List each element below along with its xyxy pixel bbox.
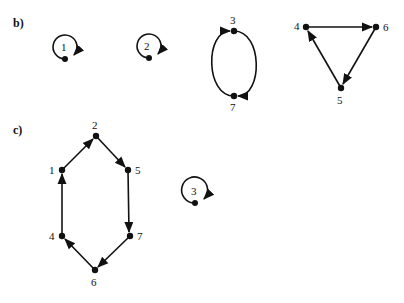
node-4 xyxy=(59,233,65,239)
node-5 xyxy=(338,85,344,91)
node-7 xyxy=(127,233,133,239)
panel-c: c) 1 2 5 7 6 4 3 xyxy=(13,119,208,288)
node-label-3: 3 xyxy=(191,185,197,197)
node-label-1: 1 xyxy=(61,41,67,53)
node-4 xyxy=(303,24,309,30)
node-2 xyxy=(146,55,152,61)
edge-3-7 xyxy=(234,31,256,96)
node-label-5: 5 xyxy=(135,164,141,176)
node-label-5: 5 xyxy=(337,94,343,106)
fixed-point-2: 2 xyxy=(137,34,161,61)
panel-b-label: b) xyxy=(13,16,24,30)
node-label-7: 7 xyxy=(137,230,143,242)
permutation-cycle-diagram: b) 1 2 3 7 4 xyxy=(0,0,404,303)
panel-b: b) 1 2 3 7 4 xyxy=(13,14,389,113)
node-1 xyxy=(62,56,68,62)
edge-2-5 xyxy=(96,136,125,167)
node-label-3: 3 xyxy=(230,14,236,26)
fixed-point-3: 3 xyxy=(182,177,208,206)
node-7 xyxy=(231,93,237,99)
edge-5-7 xyxy=(128,170,129,232)
edge-5-4 xyxy=(308,31,341,88)
node-2 xyxy=(93,133,99,139)
node-5 xyxy=(125,167,131,173)
fixed-point-1: 1 xyxy=(53,35,77,62)
node-1 xyxy=(59,167,65,173)
node-label-4: 4 xyxy=(294,20,300,32)
edge-6-5 xyxy=(343,27,376,84)
node-label-6: 6 xyxy=(383,21,389,33)
node-3 xyxy=(192,200,198,206)
cycle-3-7: 3 7 xyxy=(212,14,257,113)
node-3 xyxy=(231,28,237,34)
node-6 xyxy=(92,267,98,273)
edge-6-4 xyxy=(65,239,95,270)
edge-7-3 xyxy=(212,31,234,96)
panel-c-label: c) xyxy=(13,123,22,137)
edge-1-2 xyxy=(62,139,93,170)
node-label-2: 2 xyxy=(92,119,98,131)
cycle-4-6-5: 4 6 5 xyxy=(294,20,389,106)
edge-7-6 xyxy=(98,236,130,267)
node-label-1: 1 xyxy=(49,164,55,176)
node-label-7: 7 xyxy=(230,101,236,113)
node-label-4: 4 xyxy=(49,230,55,242)
node-label-6: 6 xyxy=(91,276,97,288)
cycle-1-2-5-7-6-4: 1 2 5 7 6 4 xyxy=(49,119,143,288)
node-6 xyxy=(373,24,379,30)
node-label-2: 2 xyxy=(144,40,150,52)
